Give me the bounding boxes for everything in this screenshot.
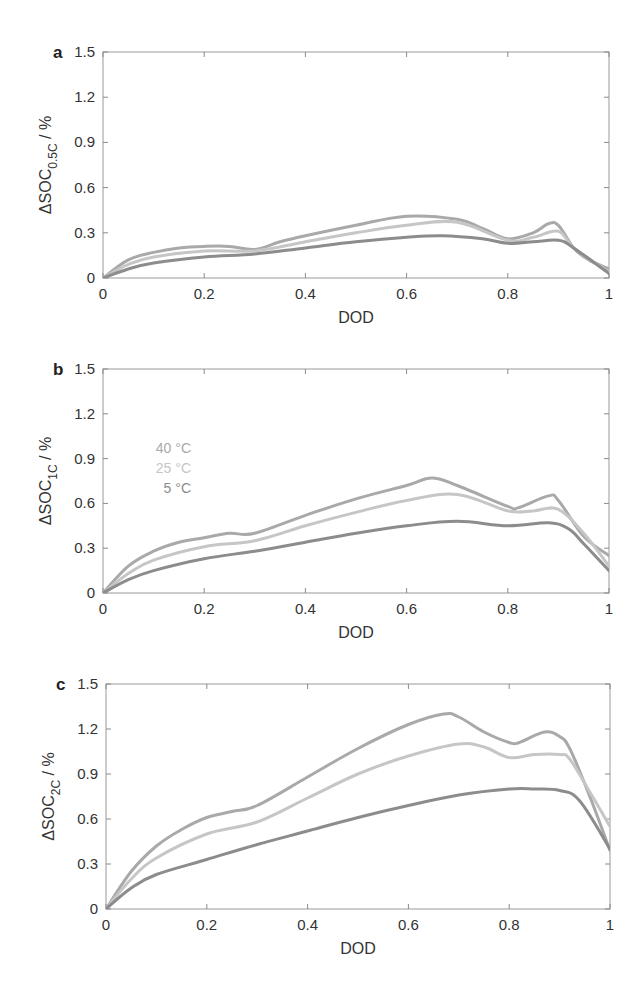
x-axis-title: DOD [338, 309, 374, 326]
y-axis-title: ΔSOC0.5C / % [37, 116, 60, 214]
y-tick-label: 0 [87, 584, 95, 601]
x-tick-label: 0.6 [396, 600, 417, 617]
legend-item: 40 °C [156, 440, 191, 456]
y-tick-label: 0.6 [77, 810, 98, 827]
x-tick-label: 0.4 [297, 916, 318, 933]
x-tick-label: 0 [99, 285, 107, 302]
legend-item: 25 °C [156, 460, 191, 476]
x-tick-label: 0.4 [295, 285, 316, 302]
plot-area-frame [103, 52, 609, 278]
y-tick-label: 1.5 [74, 43, 95, 60]
x-tick-label: 0.8 [497, 600, 518, 617]
panel-letter: c [56, 675, 65, 694]
x-tick-label: 1 [605, 600, 613, 617]
series-line-40Cc [103, 216, 609, 278]
y-tick-label: 1.5 [77, 675, 98, 692]
x-tick-label: 0.2 [194, 285, 215, 302]
panel-letter: b [53, 360, 63, 379]
series-line-40Cc [106, 713, 610, 909]
panel-a: 00.20.40.60.8100.30.60.91.21.5aDODΔSOC0.… [37, 43, 613, 326]
panel-c: 00.20.40.60.8100.30.60.91.21.5cDODΔSOC2C… [40, 675, 614, 957]
legend-item: 5 °C [164, 480, 191, 496]
x-tick-label: 0.2 [194, 600, 215, 617]
x-tick-label: 0 [102, 916, 110, 933]
series-line-5Cc [103, 236, 609, 278]
x-axis-title: DOD [338, 624, 374, 641]
y-tick-label: 0.3 [74, 539, 95, 556]
y-tick-label: 0.9 [74, 450, 95, 467]
y-tick-label: 0.6 [74, 494, 95, 511]
series-line-5Cc [106, 788, 610, 909]
x-tick-label: 1 [606, 916, 614, 933]
series-line-25Cc [103, 221, 609, 278]
y-tick-label: 1.2 [77, 720, 98, 737]
y-tick-label: 1.2 [74, 88, 95, 105]
x-tick-label: 0 [99, 600, 107, 617]
x-tick-label: 0.8 [499, 916, 520, 933]
figure: 00.20.40.60.8100.30.60.91.21.5aDODΔSOC0.… [0, 0, 644, 997]
y-tick-label: 0 [90, 900, 98, 917]
x-tick-label: 0.2 [196, 916, 217, 933]
y-tick-label: 1.5 [74, 360, 95, 377]
panel-letter: a [53, 43, 63, 62]
y-axis-title: ΔSOC1C / % [37, 437, 60, 525]
x-tick-label: 0.6 [396, 285, 417, 302]
series-line-5Cc [103, 521, 609, 593]
plot-area-frame [106, 684, 610, 909]
y-tick-label: 0.3 [77, 855, 98, 872]
y-tick-label: 0.9 [77, 765, 98, 782]
series-line-25Cc [106, 743, 610, 909]
x-tick-label: 0.8 [497, 285, 518, 302]
y-tick-label: 0.9 [74, 133, 95, 150]
y-axis-title: ΔSOC2C / % [40, 752, 63, 840]
x-tick-label: 0.6 [398, 916, 419, 933]
y-tick-label: 0 [87, 269, 95, 286]
y-tick-label: 0.6 [74, 179, 95, 196]
x-tick-label: 0.4 [295, 600, 316, 617]
x-tick-label: 1 [605, 285, 613, 302]
x-axis-title: DOD [340, 940, 376, 957]
y-tick-label: 1.2 [74, 405, 95, 422]
panel-b: 00.20.40.60.8100.30.60.91.21.5bDODΔSOC1C… [37, 360, 613, 641]
y-tick-label: 0.3 [74, 224, 95, 241]
